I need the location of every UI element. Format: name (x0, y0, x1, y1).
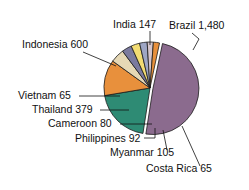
slice-label-philippines: Philippines 92 (75, 132, 141, 144)
pie-slices-group (104, 42, 199, 135)
slice-label-indonesia: Indonesia 600 (22, 38, 88, 50)
slice-label-india: India 147 (113, 18, 156, 30)
slice-label-vietnam: Vietnam 65 (18, 89, 71, 101)
leader-line-brazil (192, 33, 199, 50)
leader-line-costarica (182, 126, 200, 166)
pie-chart-figure: Brazil 1,480India 147Indonesia 600Vietna… (0, 0, 249, 190)
slice-label-brazil: Brazil 1,480 (169, 19, 225, 31)
leader-line-indonesia (83, 52, 116, 66)
slice-label-cameroon: Cameroon 80 (48, 117, 112, 129)
slice-label-costarica: Costa Rica 65 (146, 162, 212, 174)
pie-chart-canvas: Brazil 1,480India 147Indonesia 600Vietna… (0, 0, 249, 190)
slice-label-myanmar: Myanmar 105 (110, 146, 174, 158)
slice-label-thailand: Thailand 379 (32, 103, 93, 115)
